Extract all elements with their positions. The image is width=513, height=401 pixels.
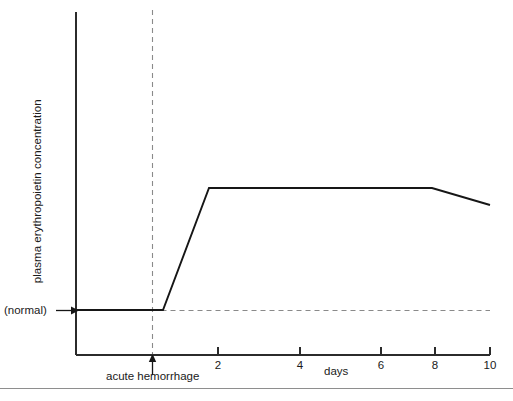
y-axis-label: plasma erythropoietin concentration: [31, 96, 44, 286]
x-tick-label-8: 8: [423, 359, 447, 371]
x-tick-label-10: 10: [478, 359, 502, 371]
figure-container: plasma erythropoietin concentration (nor…: [0, 0, 513, 401]
chart-canvas: [0, 0, 513, 401]
x-tick-label-4: 4: [288, 359, 312, 371]
normal-pointer-arrow-icon: [71, 307, 79, 315]
erythropoietin-curve: [77, 188, 490, 310]
x-axis-label: days: [324, 365, 348, 378]
x-tick-label-2: 2: [206, 359, 230, 371]
normal-baseline-label: (normal): [4, 304, 47, 317]
x-tick-label-6: 6: [369, 359, 393, 371]
acute-hemorrhage-label: acute hemorrhage: [106, 370, 199, 383]
